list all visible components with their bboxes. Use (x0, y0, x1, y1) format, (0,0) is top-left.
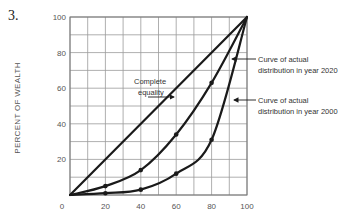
annotation-label: distribution in year 2000 (258, 107, 338, 116)
y-tick-label: 40 (57, 120, 66, 129)
x-tick-label: 0 (60, 202, 65, 211)
annotation-label: distribution in year 2020 (258, 66, 338, 75)
data-point-marker (174, 132, 179, 137)
x-tick-label: 20 (101, 202, 110, 211)
annotation-label: equality (138, 88, 164, 97)
x-tick-label: 40 (136, 202, 145, 211)
data-point-marker (139, 187, 144, 192)
data-point-marker (174, 171, 179, 176)
data-point-marker (103, 184, 108, 189)
lorenz-curve-chart: 02040608010020406080100CompleteequalityC… (0, 0, 355, 224)
annotation-label: Curve of actual (258, 96, 309, 105)
data-point-marker (139, 168, 144, 173)
x-tick-label: 60 (172, 202, 181, 211)
y-tick-label: 80 (57, 49, 66, 58)
annotation-label: Complete (134, 77, 166, 86)
y-tick-label: 20 (57, 155, 66, 164)
data-point-marker (209, 81, 214, 86)
y-tick-label: 100 (53, 13, 67, 22)
y-tick-label: 60 (57, 84, 66, 93)
x-tick-label: 100 (240, 202, 254, 211)
data-point-marker (209, 138, 214, 143)
annotation-label: Curve of actual (258, 55, 309, 64)
x-tick-label: 80 (207, 202, 216, 211)
data-point-marker (103, 191, 108, 196)
